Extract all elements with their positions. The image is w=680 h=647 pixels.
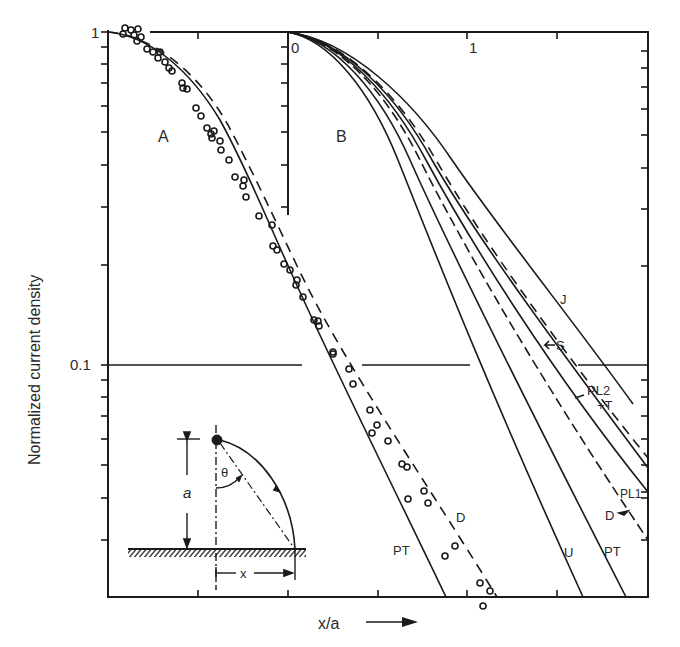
curve-label-pl2: PL2: [587, 383, 610, 398]
curve-label-pt-a: PT: [393, 543, 410, 558]
inset-label-a: a: [183, 484, 191, 501]
d-pointer-icon: [619, 511, 628, 515]
inner-b-axis-ticks: [281, 47, 288, 207]
s-pointer-icon: [545, 341, 555, 349]
curve-label-pt-b: PT: [604, 544, 621, 559]
inset-label-theta: θ: [221, 465, 228, 480]
b-x-tick-label-0: 0: [291, 39, 299, 56]
panel-a-label: A: [158, 128, 169, 145]
y-tick-label-1: 1: [91, 24, 99, 41]
top-axis-ticks: [198, 32, 557, 39]
left-axis-ticks: [101, 32, 108, 540]
y-axis-label: Normalized current density: [26, 275, 43, 465]
curve-label-s: S: [556, 338, 565, 353]
panel-a-curves: [108, 32, 497, 597]
y-tick-label-0.1: 0.1: [70, 356, 91, 373]
curve-label-d-a: D: [456, 510, 465, 525]
chart: 1 0.1 A B 0 1 J S PL2 +T PL1 D PT U D PT…: [0, 0, 680, 647]
curve-label-d-b: D: [605, 508, 614, 523]
experimental-data-points: [120, 25, 493, 609]
curve-a-d: [108, 32, 497, 597]
curve-b-pl1: [288, 32, 648, 492]
curve-b-j: [288, 32, 633, 404]
b-x-tick-label-1: 1: [469, 39, 477, 56]
ground-plane-hatch: [128, 550, 306, 557]
curve-label-u: U: [564, 545, 573, 560]
bottom-axis-ticks: [198, 590, 557, 597]
curve-label-pl2-t: +T: [597, 398, 613, 413]
x-axis-label: x/a: [318, 615, 339, 632]
curve-b-d: [288, 32, 648, 540]
panel-b-curves: [288, 32, 648, 597]
curve-label-j: J: [560, 292, 567, 307]
x-axis-label-text: x/a: [318, 615, 339, 632]
curve-label-pl1: PL1: [620, 487, 642, 501]
inset-label-x: x: [240, 566, 247, 581]
inset-geometry-diagram: [128, 425, 306, 590]
plot-frame: [108, 30, 649, 598]
curve-b-u: [288, 32, 583, 597]
panel-b-label: B: [336, 128, 347, 145]
x-axis-arrow-icon: [366, 617, 418, 627]
trajectory-arc: [220, 440, 295, 549]
